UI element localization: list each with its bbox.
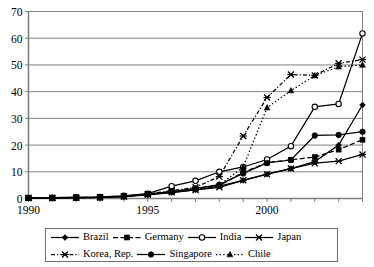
data-point-square bbox=[360, 137, 365, 142]
gridlines-group bbox=[29, 12, 363, 172]
y-tick-labels-group: 010203040506070 bbox=[11, 6, 29, 205]
series-line bbox=[29, 33, 363, 198]
legend-marker-square bbox=[112, 232, 142, 243]
data-point-circle-open bbox=[336, 101, 341, 106]
data-point-diamond bbox=[62, 235, 68, 241]
x-tick-label: 1995 bbox=[136, 204, 159, 215]
data-point-circle-open bbox=[360, 31, 365, 36]
data-point-circle-filled bbox=[336, 132, 342, 138]
data-point-circle-filled bbox=[240, 171, 246, 177]
y-tick-label: 20 bbox=[11, 140, 23, 152]
data-point-x bbox=[256, 235, 263, 241]
data-point-x bbox=[287, 72, 294, 78]
data-point-diamond bbox=[360, 102, 366, 108]
data-point-square bbox=[312, 155, 317, 160]
y-tick-label: 10 bbox=[11, 166, 23, 178]
legend-row: Korea, Rep.SingaporeChile bbox=[46, 246, 337, 263]
legend-label: India bbox=[217, 232, 245, 243]
legend-marker-triangle bbox=[215, 249, 245, 260]
data-point-circle-open bbox=[199, 235, 204, 240]
legend-marker-circle-open bbox=[187, 232, 217, 243]
data-point-x bbox=[61, 252, 68, 258]
x-tick-labels-group: 199019952000 bbox=[17, 204, 279, 215]
data-point-circle-filled bbox=[360, 129, 366, 135]
data-point-x bbox=[240, 133, 247, 139]
legend-label: Japan bbox=[274, 232, 304, 243]
legend-label: Germany bbox=[142, 232, 187, 243]
data-series-group bbox=[25, 31, 366, 201]
line-chart-figure: 010203040506070 199019952000 BrazilGerma… bbox=[0, 0, 374, 267]
chart-svg: 010203040506070 199019952000 bbox=[0, 0, 374, 215]
data-point-circle-filled bbox=[312, 133, 318, 139]
data-point-circle-filled bbox=[288, 157, 294, 163]
data-point-circle-filled bbox=[264, 160, 270, 166]
chart-legend: BrazilGermanyIndiaJapan Korea, Rep.Singa… bbox=[45, 228, 338, 262]
data-point-x bbox=[263, 95, 270, 101]
data-point-x bbox=[335, 158, 342, 164]
legend-item-germany[interactable]: Germany bbox=[112, 232, 187, 243]
y-tick-label: 30 bbox=[11, 113, 23, 125]
legend-item-brazil[interactable]: Brazil bbox=[50, 232, 112, 243]
legend-item-india[interactable]: India bbox=[187, 232, 245, 243]
x-tick-label: 1990 bbox=[17, 204, 40, 215]
legend-marker-diamond bbox=[50, 232, 80, 243]
data-point-square bbox=[336, 147, 341, 152]
legend-label: Singapore bbox=[166, 249, 215, 260]
data-point-triangle bbox=[288, 87, 294, 92]
data-point-circle-open bbox=[288, 143, 293, 148]
legend-marker-x bbox=[244, 232, 274, 243]
legend-item-singapore[interactable]: Singapore bbox=[136, 249, 215, 260]
series-india bbox=[26, 31, 365, 201]
plot-area: 010203040506070 199019952000 bbox=[0, 0, 374, 215]
y-tick-label: 50 bbox=[11, 59, 23, 71]
data-point-circle-filled bbox=[149, 252, 155, 258]
y-tick-label: 70 bbox=[11, 6, 23, 18]
legend-marker-x bbox=[50, 249, 80, 260]
legend-label: Chile bbox=[245, 249, 274, 260]
legend-item-japan[interactable]: Japan bbox=[244, 232, 304, 243]
legend-label: Korea, Rep. bbox=[80, 249, 136, 260]
data-point-square bbox=[124, 235, 129, 240]
y-tick-label: 40 bbox=[11, 86, 23, 98]
legend-row: BrazilGermanyIndiaJapan bbox=[46, 229, 337, 246]
legend-item-korea-rep[interactable]: Korea, Rep. bbox=[50, 249, 136, 260]
series-line bbox=[29, 60, 363, 198]
legend-marker-circle-filled bbox=[136, 249, 166, 260]
data-point-circle-open bbox=[193, 178, 198, 183]
legend-item-chile[interactable]: Chile bbox=[215, 249, 274, 260]
data-point-circle-open bbox=[217, 169, 222, 174]
data-point-triangle bbox=[264, 105, 270, 110]
y-tick-label: 60 bbox=[11, 33, 23, 45]
data-point-circle-open bbox=[312, 104, 317, 109]
legend-label: Brazil bbox=[80, 232, 112, 243]
x-tick-label: 2000 bbox=[256, 204, 279, 215]
